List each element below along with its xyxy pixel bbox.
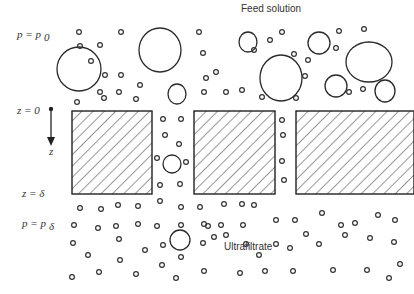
membrane-block xyxy=(194,111,275,194)
solute-molecule xyxy=(177,142,182,147)
solute-molecule xyxy=(281,133,286,138)
solute-molecule xyxy=(184,160,189,165)
solute-molecule xyxy=(201,241,206,246)
solute-molecule xyxy=(179,117,184,122)
solute-molecule xyxy=(291,269,296,274)
macromolecule xyxy=(346,42,392,82)
solute-molecule xyxy=(198,205,203,210)
solute-molecule xyxy=(222,202,227,207)
z-delta-label: z = δ xyxy=(21,187,45,199)
solute-molecule xyxy=(161,243,166,248)
solute-molecule xyxy=(161,117,166,122)
solute-molecule xyxy=(138,83,143,88)
macromolecule xyxy=(325,75,347,97)
solute-molecule xyxy=(202,269,207,274)
solute-molecule xyxy=(117,237,122,242)
solute-molecule xyxy=(197,30,202,35)
pressure-bottom-label: p = p δ xyxy=(21,217,55,232)
solute-molecule xyxy=(98,43,103,48)
solute-molecule xyxy=(240,88,245,93)
solute-molecule xyxy=(303,74,308,79)
svg-text:0: 0 xyxy=(44,31,50,43)
solute-molecule xyxy=(260,95,265,100)
solute-molecule xyxy=(204,76,209,81)
z-zero-label: z = 0 xyxy=(16,104,40,116)
solute-molecule xyxy=(118,258,123,263)
solute-molecule xyxy=(158,183,163,188)
solute-molecule xyxy=(240,202,245,207)
solute-molecule xyxy=(179,205,184,210)
solute-molecule xyxy=(143,248,148,253)
macromolecule xyxy=(375,80,395,102)
svg-text:p = p: p = p xyxy=(16,28,41,40)
solute-molecule xyxy=(304,232,309,237)
solute-molecule xyxy=(136,222,141,227)
solute-molecule xyxy=(179,223,184,228)
feed-solution-label: Feed solution xyxy=(241,3,301,14)
pressure-top-label: p = p 0 xyxy=(16,28,50,43)
solute-molecule xyxy=(119,73,124,78)
solute-molecule xyxy=(89,59,94,64)
macromolecule-in-pore xyxy=(163,155,181,173)
solute-molecule xyxy=(334,46,339,51)
solute-molecule xyxy=(70,275,75,280)
solute-molecule xyxy=(274,218,279,223)
macromolecule xyxy=(308,32,330,54)
solute-molecule xyxy=(317,242,322,247)
solute-molecule xyxy=(387,276,392,281)
solute-molecule xyxy=(280,30,285,35)
solute-molecule xyxy=(155,224,160,229)
solute-molecule xyxy=(71,241,76,246)
solute-molecule xyxy=(78,206,83,211)
solute-molecule xyxy=(119,30,124,35)
solute-molecule xyxy=(263,269,268,274)
solute-molecule xyxy=(320,211,325,216)
solute-molecule xyxy=(293,218,298,223)
solute-molecule xyxy=(280,118,285,123)
solute-molecule xyxy=(160,263,165,268)
solute-molecule xyxy=(174,276,179,281)
macromolecule xyxy=(239,32,257,52)
solute-molecule xyxy=(78,44,83,49)
solute-molecule xyxy=(98,90,103,95)
solute-molecule xyxy=(347,90,352,95)
solute-molecule xyxy=(103,73,108,78)
solute-molecule xyxy=(158,199,163,204)
solute-molecule xyxy=(268,38,273,43)
solute-molecule xyxy=(134,272,139,277)
solute-molecule xyxy=(294,96,299,101)
solute-molecule xyxy=(282,178,287,183)
membrane xyxy=(72,111,414,194)
solute-molecule xyxy=(219,223,224,228)
solute-molecule xyxy=(238,271,243,276)
solute-molecule xyxy=(117,90,122,95)
z-axis-arrow xyxy=(47,107,55,146)
solute-molecule xyxy=(280,159,285,164)
solute-molecule xyxy=(241,223,246,228)
solute-molecule xyxy=(114,224,119,229)
solute-molecule xyxy=(77,30,82,35)
solute-molecule xyxy=(224,90,229,95)
solute-molecule xyxy=(353,221,358,226)
macromolecule xyxy=(168,84,186,104)
ultrafiltration-diagram: Feed solution p = p 0 z = 0 z z = δ p = … xyxy=(0,0,414,294)
solute-molecule xyxy=(178,182,183,187)
solute-molecule xyxy=(72,223,77,228)
macromolecule xyxy=(57,47,101,91)
solute-molecule xyxy=(398,262,403,267)
macromolecule-permeated xyxy=(170,230,190,250)
solute-molecule xyxy=(179,255,184,260)
solute-molecule xyxy=(212,235,217,240)
solute-molecule xyxy=(393,218,398,223)
solute-molecule xyxy=(288,246,293,251)
solute-molecule xyxy=(75,100,80,105)
solute-molecule xyxy=(292,52,297,57)
solute-molecule xyxy=(392,240,397,245)
solute-molecule xyxy=(99,207,104,212)
solute-molecule xyxy=(96,226,101,231)
solute-molecule xyxy=(337,29,342,34)
solute-molecule xyxy=(306,58,311,63)
solute-molecule xyxy=(163,133,168,138)
svg-text:δ: δ xyxy=(49,220,55,232)
solute-molecule xyxy=(252,203,257,208)
